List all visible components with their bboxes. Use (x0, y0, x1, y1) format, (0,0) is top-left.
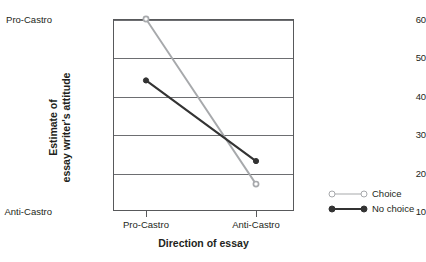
legend-marker-choice-start (329, 190, 336, 197)
gridline-50 (114, 58, 293, 59)
chart-legend: Choice No choice (330, 186, 414, 216)
y-tick-label-40: 40 (400, 90, 426, 101)
y-axis-top-label: Pro-Castro (0, 14, 52, 25)
legend-label-no-choice: No choice (372, 203, 414, 214)
x-axis-title: Direction of essay (113, 237, 294, 249)
legend-marker-no-choice-start (329, 205, 336, 212)
legend-label-choice: Choice (372, 188, 402, 199)
plot-area (113, 19, 294, 211)
gridline-40 (114, 97, 293, 98)
legend-item-choice[interactable]: Choice (330, 186, 414, 201)
legend-item-no-choice[interactable]: No choice (330, 201, 414, 216)
legend-marker-choice-end (361, 190, 368, 197)
gridline-20 (114, 174, 293, 175)
y-axis-bottom-label: Anti-Castro (0, 206, 52, 217)
y-tick-label-20: 20 (400, 167, 426, 178)
legend-swatch-no-choice (330, 203, 366, 214)
y-axis-title-line1: Estimate of (47, 28, 60, 228)
legend-marker-no-choice-end (361, 205, 368, 212)
x-tick-mark-1 (146, 211, 147, 217)
y-axis-title: Estimate of essay writer's attitude (47, 28, 72, 228)
legend-swatch-choice (330, 188, 366, 199)
y-axis-title-line2: essay writer's attitude (59, 28, 72, 228)
gridline-30 (114, 135, 293, 136)
y-tick-label-50: 50 (400, 52, 426, 63)
x-tick-mark-2 (256, 211, 257, 217)
y-tick-label-60: 60 (400, 14, 426, 25)
gridline-60 (114, 20, 293, 21)
x-tick-label-1: Pro-Castro (123, 219, 169, 230)
x-tick-label-2: Anti-Castro (232, 219, 280, 230)
y-tick-label-30: 30 (400, 129, 426, 140)
chart-figure: 60 50 40 30 20 10 Pro-Castro Anti-Castro… (0, 0, 426, 262)
